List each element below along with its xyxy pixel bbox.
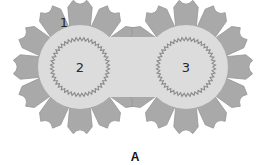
diagram-figure: 1 2 3 A bbox=[0, 0, 270, 165]
outer-cell bbox=[13, 55, 42, 79]
outer-cell bbox=[68, 105, 92, 134]
bridge-region bbox=[80, 37, 186, 97]
outer-cell bbox=[174, 105, 198, 134]
outer-cell bbox=[224, 55, 253, 79]
label-1: 1 bbox=[60, 15, 68, 30]
outer-cell bbox=[174, 0, 198, 29]
label-3: 3 bbox=[182, 60, 190, 75]
panel-label: A bbox=[131, 150, 140, 164]
inner-region bbox=[38, 25, 228, 109]
outer-cell bbox=[68, 0, 92, 29]
label-2: 2 bbox=[76, 60, 84, 75]
